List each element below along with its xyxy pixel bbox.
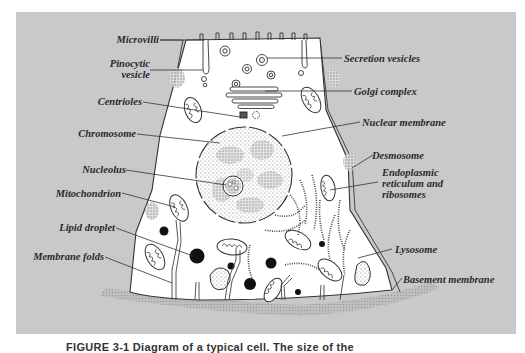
- label-line: Pinocytic: [95, 58, 150, 69]
- label-centrioles: Centrioles: [80, 96, 142, 107]
- label-secretion-vesicles: Secretion vesicles: [344, 53, 420, 64]
- label-line: reticulum and: [382, 178, 443, 189]
- label-lipid-droplet: Lipid droplet: [40, 222, 115, 233]
- label-pinocytic-vesicle: Pinocytic vesicle: [95, 58, 150, 80]
- label-lysosome: Lysosome: [395, 244, 437, 255]
- label-basement-membrane: Basement membrane: [403, 274, 494, 285]
- nucleolus: [223, 176, 243, 196]
- label-microvilli: Microvilli: [89, 34, 159, 45]
- label-line: ribosomes: [382, 189, 443, 200]
- label-mitochondrion: Mitochondrion: [30, 188, 121, 199]
- label-endoplasmic-reticulum: Endoplasmic reticulum and ribosomes: [382, 167, 443, 200]
- label-nuclear-membrane: Nuclear membrane: [362, 117, 446, 128]
- label-chromosome: Chromosome: [60, 128, 136, 139]
- label-nucleolus: Nucleolus: [70, 164, 126, 175]
- label-golgi-complex: Golgi complex: [354, 86, 417, 97]
- label-line: vesicle: [95, 69, 150, 80]
- figure-caption: FIGURE 3-1 Diagram of a typical cell. Th…: [66, 341, 354, 353]
- cell-diagram: [0, 0, 525, 353]
- label-membrane-folds: Membrane folds: [20, 251, 104, 262]
- nucleus: [196, 127, 292, 223]
- label-desmosome: Desmosome: [372, 150, 424, 161]
- label-line: Endoplasmic: [382, 167, 443, 178]
